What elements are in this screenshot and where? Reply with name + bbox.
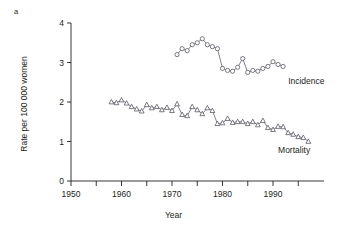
data-point-triangle — [205, 105, 210, 109]
data-point-triangle — [129, 104, 134, 108]
series-label-incidence: Incidence — [288, 76, 325, 86]
data-point-triangle — [210, 108, 215, 112]
y-tick-label: 4 — [59, 18, 64, 28]
x-tick-label: 1960 — [112, 189, 131, 199]
data-point-circle — [251, 68, 255, 72]
data-point-circle — [256, 69, 260, 73]
series-annotations: IncidenceMortality — [278, 76, 325, 154]
data-point-triangle — [165, 105, 170, 109]
data-point-triangle — [144, 102, 149, 106]
panel-label: a — [14, 8, 18, 16]
chart-plot-area: 01234 19501960197019801990 IncidenceMort… — [0, 0, 347, 231]
x-axis-ticks: 19501960197019801990 — [62, 181, 299, 199]
series-mortality — [109, 97, 311, 143]
data-point-triangle — [160, 107, 165, 111]
y-tick-label: 2 — [59, 97, 64, 107]
data-point-circle — [246, 70, 250, 74]
data-point-circle — [241, 56, 245, 60]
data-point-triangle — [175, 101, 180, 105]
data-point-circle — [175, 53, 179, 57]
data-point-circle — [210, 45, 214, 49]
x-tick-label: 1980 — [213, 189, 232, 199]
data-point-circle — [215, 47, 219, 51]
data-point-circle — [271, 60, 275, 64]
data-point-circle — [195, 41, 199, 45]
data-point-circle — [225, 68, 229, 72]
data-point-triangle — [124, 101, 129, 105]
data-point-triangle — [134, 107, 139, 111]
data-point-circle — [220, 66, 224, 70]
x-axis-label: Year — [0, 210, 347, 220]
data-point-triangle — [276, 124, 281, 128]
data-point-circle — [261, 66, 265, 70]
y-tick-label: 3 — [59, 58, 64, 68]
axes — [71, 23, 324, 181]
data-point-triangle — [195, 107, 200, 111]
series-incidence — [175, 37, 285, 75]
y-tick-label: 0 — [59, 176, 64, 186]
data-point-triangle — [261, 118, 266, 122]
data-point-triangle — [109, 99, 114, 103]
data-point-triangle — [250, 119, 255, 123]
data-point-circle — [190, 43, 194, 47]
y-axis-ticks: 01234 — [59, 18, 71, 186]
data-point-circle — [236, 65, 240, 69]
data-point-triangle — [306, 139, 311, 143]
data-point-triangle — [119, 97, 124, 101]
x-tick-label: 1950 — [62, 189, 81, 199]
data-point-circle — [266, 64, 270, 68]
data-series — [109, 37, 311, 144]
x-tick-label: 1970 — [163, 189, 182, 199]
data-point-circle — [185, 49, 189, 53]
figure-panel: a Rate per 100 000 women Year 01234 1950… — [0, 0, 347, 231]
y-tick-label: 1 — [59, 137, 64, 147]
data-point-circle — [276, 62, 280, 66]
data-point-triangle — [296, 134, 301, 138]
x-tick-label: 1990 — [264, 189, 283, 199]
data-point-triangle — [190, 104, 195, 108]
series-line — [111, 100, 308, 141]
data-point-circle — [281, 64, 285, 68]
series-label-mortality: Mortality — [278, 145, 311, 155]
y-axis-label: Rate per 100 000 women — [19, 39, 29, 169]
data-point-circle — [180, 47, 184, 51]
data-point-triangle — [154, 104, 159, 108]
data-point-circle — [231, 69, 235, 73]
data-point-triangle — [225, 116, 230, 120]
data-point-triangle — [180, 112, 185, 116]
data-point-circle — [205, 43, 209, 47]
data-point-circle — [200, 37, 204, 41]
